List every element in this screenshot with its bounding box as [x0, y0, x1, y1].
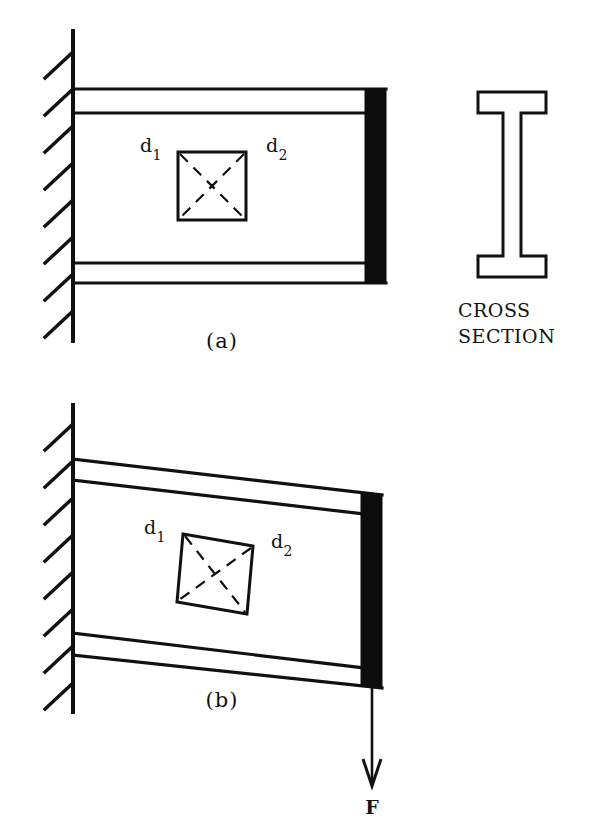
- panel-b-beam: [73, 459, 382, 688]
- panel-b-element: d 1 d 2: [144, 516, 293, 614]
- element-label-d2-b: d 2: [271, 530, 293, 559]
- d2-base-b: d: [271, 530, 283, 552]
- d2-subscript-a: 2: [279, 147, 288, 163]
- wall-hatch-marks-a: [45, 52, 73, 337]
- wall-hatch-marks-b: [45, 424, 73, 709]
- beam-bottom-flange-upper-edge-b: [73, 633, 364, 668]
- d1-base-a: d: [140, 134, 152, 156]
- i-beam-cross-section-icon: [478, 92, 546, 277]
- element-diagonals-a: [180, 154, 244, 218]
- panel-a-wall: [45, 31, 73, 341]
- panel-a-group: d 1 d 2 (a): [45, 31, 386, 353]
- force-label: F: [365, 796, 379, 818]
- engineering-figure-canvas: d 1 d 2 (a) CROSS SECTION: [0, 0, 594, 824]
- panel-a-element: d 1 d 2: [140, 134, 288, 220]
- panel-b-caption: (b): [206, 688, 239, 712]
- force-arrow-group-b: F: [363, 688, 381, 818]
- beam-top-flange-upper-edge-b: [73, 459, 382, 495]
- beam-free-end-block-b: [361, 493, 382, 688]
- element-diagonals-b: [179, 536, 251, 612]
- panel-a-caption: (a): [206, 329, 238, 353]
- figure-root: d 1 d 2 (a) CROSS SECTION: [0, 0, 594, 824]
- d2-base-a: d: [266, 134, 278, 156]
- element-label-d2-a: d 2: [266, 134, 288, 163]
- panel-b-wall: [45, 405, 73, 712]
- cross-section-group: CROSS SECTION: [458, 92, 555, 347]
- element-label-d1-b: d 1: [144, 516, 166, 545]
- panel-b-group: d 1 d 2 F (b): [45, 405, 382, 818]
- beam-bottom-flange-lower-edge-b: [73, 655, 382, 688]
- d1-subscript-b: 1: [157, 529, 166, 545]
- beam-free-end-block-a: [365, 89, 386, 283]
- d2-subscript-b: 2: [284, 543, 293, 559]
- d1-base-b: d: [144, 516, 156, 538]
- element-label-d1-a: d 1: [140, 134, 162, 163]
- beam-top-flange-lower-edge-b: [73, 480, 364, 514]
- cross-section-label-line1: CROSS: [458, 299, 531, 321]
- cross-section-label-line2: SECTION: [458, 325, 555, 347]
- panel-a-beam: [73, 89, 386, 283]
- d1-subscript-a: 1: [153, 147, 162, 163]
